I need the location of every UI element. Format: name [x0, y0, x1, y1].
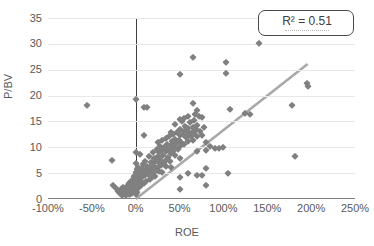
gridline — [48, 44, 355, 45]
y-axis-tick-label: 10 — [16, 142, 42, 153]
x-axis-tick-label: -50% — [69, 203, 115, 214]
x-axis-tick-label: 150% — [244, 203, 290, 214]
x-axis-tick-label: 250% — [332, 203, 374, 214]
r-squared-label: R² = 0.51 — [259, 14, 355, 28]
plot-area — [48, 18, 355, 199]
trendline-line — [136, 64, 308, 199]
r-squared-legend-box: R² = 0.51 — [258, 10, 354, 36]
x-axis-tick-label: 0% — [113, 203, 159, 214]
x-axis-tick-label: -100% — [25, 203, 71, 214]
gridline — [48, 70, 355, 71]
gridline — [48, 96, 355, 97]
x-axis-tick-label: 100% — [200, 203, 246, 214]
y-axis-tick-label: 5 — [16, 168, 42, 179]
x-axis-tick-label: 50% — [157, 203, 203, 214]
x-axis-title: ROE — [0, 226, 374, 238]
y-axis-tick-label: 20 — [16, 90, 42, 101]
y-axis-tick-label: 15 — [16, 116, 42, 127]
gridline — [48, 121, 355, 122]
trendline-legend-sample-icon — [285, 30, 329, 31]
y-axis-tick-label: 35 — [16, 13, 42, 24]
gridline — [48, 147, 355, 148]
y-axis-tick-label: 25 — [16, 64, 42, 75]
y-axis-tick-label: 30 — [16, 38, 42, 49]
x-axis-tick-label: 200% — [288, 203, 334, 214]
scatter-chart: P/BV ROE R² = 0.51 05101520253035-100%-5… — [0, 0, 374, 246]
y-axis-title: P/BV — [2, 74, 14, 99]
